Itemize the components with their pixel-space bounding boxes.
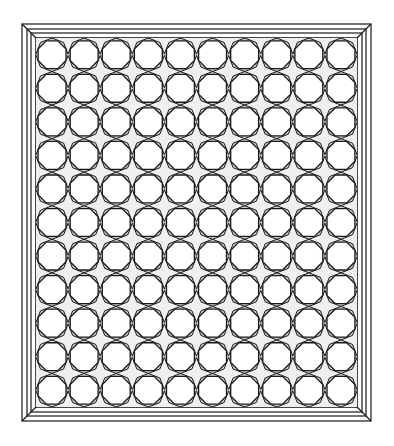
octagon-tile	[70, 309, 98, 337]
octagon-tile	[167, 74, 195, 102]
octagon-tile	[199, 74, 227, 102]
octagon-tile	[70, 74, 98, 102]
octagon-tile	[327, 309, 355, 337]
octagon-tile	[134, 108, 162, 136]
octagon-tile	[327, 175, 355, 203]
octagon-tile	[199, 209, 227, 237]
octagon-tile	[167, 276, 195, 304]
octagon-tile	[199, 276, 227, 304]
octagon-tile	[231, 41, 259, 69]
octagon-tile	[327, 209, 355, 237]
octagon-tile	[295, 343, 323, 371]
octagon-tile	[38, 309, 66, 337]
octagon-tile	[263, 376, 291, 404]
octagon-tile	[231, 141, 259, 169]
octagon-tile	[134, 74, 162, 102]
octagon-tile	[327, 141, 355, 169]
octagon-tile	[70, 175, 98, 203]
octagon-tile	[263, 41, 291, 69]
octagon-tile	[167, 108, 195, 136]
octagon-tile	[167, 376, 195, 404]
octagon-tile	[134, 343, 162, 371]
octagon-tile	[134, 309, 162, 337]
octagon-tile	[102, 343, 130, 371]
octagon-tile	[102, 74, 130, 102]
octagon-tile	[38, 242, 66, 270]
octagon-tile	[199, 41, 227, 69]
octagon-tile	[134, 242, 162, 270]
octagon-tile	[167, 175, 195, 203]
octagon-tile	[295, 242, 323, 270]
octagon-tile	[199, 175, 227, 203]
octagon-tile	[38, 376, 66, 404]
octagon-tile	[295, 376, 323, 404]
octagon-tile	[231, 108, 259, 136]
octagon-tile	[231, 242, 259, 270]
octagon-tile	[38, 41, 66, 69]
octagon-tile	[327, 108, 355, 136]
octagon-tile	[134, 141, 162, 169]
octagon-tile	[327, 74, 355, 102]
tile-grid	[20, 22, 373, 423]
octagon-tile	[134, 276, 162, 304]
octagon-tile	[102, 209, 130, 237]
octagon-tile	[167, 41, 195, 69]
octagon-tile	[38, 343, 66, 371]
octagon-tile	[134, 41, 162, 69]
octagon-tile	[327, 276, 355, 304]
octagon-tile	[199, 343, 227, 371]
octagon-tile	[231, 74, 259, 102]
octagon-tile	[102, 175, 130, 203]
octagon-tile	[295, 175, 323, 203]
octagon-tile	[327, 41, 355, 69]
octagon-tile	[38, 108, 66, 136]
octagon-tile	[38, 74, 66, 102]
octagon-tile	[102, 242, 130, 270]
octagon-tile	[263, 309, 291, 337]
octagon-tile	[167, 209, 195, 237]
stained-glass-panel	[0, 0, 394, 446]
octagon-tile	[263, 74, 291, 102]
octagon-tile	[295, 309, 323, 337]
octagon-tile	[295, 209, 323, 237]
octagon-tile	[295, 108, 323, 136]
octagon-tile	[70, 41, 98, 69]
octagon-tile	[134, 175, 162, 203]
octagon-tile	[70, 376, 98, 404]
octagon-tile	[295, 74, 323, 102]
octagon-tile	[231, 376, 259, 404]
octagon-tile	[102, 376, 130, 404]
octagon-tile	[231, 343, 259, 371]
octagon-tile	[38, 175, 66, 203]
octagon-tile	[295, 276, 323, 304]
octagon-tile	[199, 242, 227, 270]
octagon-tile	[199, 309, 227, 337]
octagon-tile	[38, 209, 66, 237]
octagon-tile	[167, 242, 195, 270]
octagon-tile	[263, 209, 291, 237]
octagon-tile	[295, 141, 323, 169]
octagon-tile	[327, 343, 355, 371]
octagon-tile	[231, 175, 259, 203]
octagon-tile	[70, 242, 98, 270]
octagon-tile	[231, 309, 259, 337]
octagon-tile	[102, 141, 130, 169]
octagon-tile	[70, 343, 98, 371]
octagon-tile	[327, 242, 355, 270]
octagon-tile	[70, 209, 98, 237]
octagon-tile	[102, 41, 130, 69]
octagon-tile	[70, 108, 98, 136]
octagon-tile	[295, 41, 323, 69]
octagon-tile	[70, 141, 98, 169]
octagon-tile	[38, 141, 66, 169]
octagon-tile	[199, 141, 227, 169]
octagon-tile	[70, 276, 98, 304]
octagon-tile	[263, 108, 291, 136]
octagon-tile	[199, 108, 227, 136]
octagon-tile	[134, 376, 162, 404]
octagon-tile	[134, 209, 162, 237]
octagon-tile	[327, 376, 355, 404]
octagon-tile	[231, 276, 259, 304]
octagon-tile	[167, 309, 195, 337]
octagon-tile	[263, 276, 291, 304]
